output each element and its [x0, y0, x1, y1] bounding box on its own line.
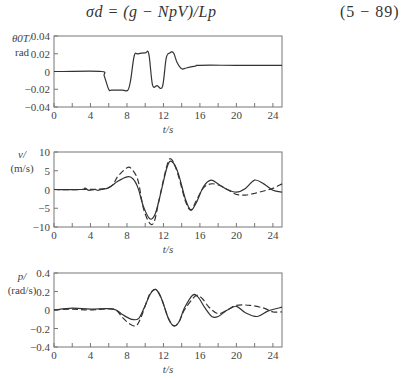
y-tick-label: −0.04: [25, 101, 51, 113]
y-axis-title: p/: [17, 270, 28, 282]
roll-rate-chart: 048121620240.40.20−0.2−0.4t/sp/(rad/s): [8, 267, 282, 375]
y-tick-label: 10: [39, 146, 51, 158]
y-axis-title: θ0T/: [12, 32, 33, 44]
x-axis-title: t/s: [163, 363, 173, 375]
x-tick-label: 20: [231, 349, 243, 361]
solid-series-line: [54, 51, 282, 91]
x-tick-label: 4: [88, 109, 94, 121]
y-tick-label: −0.02: [25, 83, 50, 95]
x-tick-label: 12: [158, 109, 169, 121]
y-tick-label: 0.4: [36, 267, 50, 279]
solid-series-line: [54, 161, 282, 219]
x-tick-label: 20: [231, 109, 243, 121]
x-axis-title: t/s: [163, 123, 173, 135]
y-tick-label: −0.2: [30, 323, 50, 335]
plot-frame: [54, 273, 282, 347]
dashed-series-line: [54, 289, 282, 326]
x-tick-label: 24: [267, 349, 279, 361]
y-tick-label: 0.04: [31, 30, 51, 42]
x-axis-title: t/s: [163, 243, 173, 255]
x-tick-label: 16: [194, 349, 206, 361]
x-tick-label: 0: [51, 109, 57, 121]
x-tick-label: 4: [88, 349, 94, 361]
x-tick-label: 24: [267, 229, 279, 241]
x-tick-label: 8: [124, 349, 130, 361]
y-tick-label: −5: [38, 202, 50, 214]
y-tick-label: −0.4: [30, 341, 50, 353]
charts-canvas: 048121620240.040.020−0.02−0.04t/sθ0T/rad…: [0, 0, 413, 380]
x-tick-label: 4: [88, 229, 94, 241]
y-tick-label: 0: [45, 304, 51, 316]
x-tick-label: 16: [194, 229, 206, 241]
x-tick-label: 20: [231, 229, 243, 241]
x-tick-label: 8: [124, 229, 130, 241]
x-tick-label: 0: [51, 229, 57, 241]
y-tick-label: 0.02: [31, 48, 50, 60]
x-tick-label: 8: [124, 109, 130, 121]
x-tick-label: 0: [51, 349, 57, 361]
y-axis-unit: (m/s): [10, 162, 34, 175]
velocity-chart: 048121620241050−5−10t/sv/(m/s): [10, 146, 282, 255]
y-tick-label: 0: [45, 184, 51, 196]
y-tick-label: −10: [33, 221, 51, 233]
y-tick-label: 0: [45, 66, 51, 78]
solid-series-line: [54, 289, 282, 326]
theta-chart: 048121620240.040.020−0.02−0.04t/sθ0T/rad: [12, 30, 282, 135]
x-tick-label: 16: [194, 109, 206, 121]
x-tick-label: 24: [267, 109, 279, 121]
y-axis-unit: rad: [15, 46, 30, 58]
x-tick-label: 12: [158, 349, 169, 361]
x-tick-label: 12: [158, 229, 169, 241]
y-axis-title: v/: [18, 148, 27, 160]
y-axis-unit: (rad/s): [8, 284, 37, 297]
y-tick-label: 5: [45, 165, 51, 177]
y-tick-label: 0.2: [36, 286, 50, 298]
dashed-series-line: [54, 159, 282, 225]
